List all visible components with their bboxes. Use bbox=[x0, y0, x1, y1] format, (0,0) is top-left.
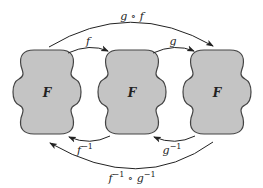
node-right: F bbox=[183, 50, 251, 134]
arrow-f bbox=[68, 47, 108, 53]
node-label: F bbox=[212, 86, 223, 100]
arrow-g-inverse bbox=[154, 136, 195, 141]
arrow-g bbox=[153, 47, 194, 53]
label-g-compose-f: g ∘ f bbox=[120, 10, 145, 23]
label-g-inverse: g−1 bbox=[163, 142, 182, 157]
node-middle: F bbox=[98, 50, 166, 134]
node-left: F bbox=[13, 50, 81, 134]
arrow-g-compose-f bbox=[49, 22, 213, 47]
label-f: f bbox=[85, 35, 92, 48]
label-f-inverse: f−1 bbox=[76, 142, 93, 157]
function-composition-diagram: F F F g ∘ f f g f−1 g−1 f−1 ∘ g−1 bbox=[0, 0, 263, 188]
label-g: g bbox=[169, 35, 176, 48]
node-label: F bbox=[127, 86, 138, 100]
arrow-f-inverse bbox=[69, 136, 110, 141]
label-f-inverse-compose-g-inverse: f−1 ∘ g−1 bbox=[107, 170, 155, 185]
node-label: F bbox=[42, 86, 53, 100]
arrow-f-inverse-compose-g-inverse bbox=[50, 142, 213, 169]
